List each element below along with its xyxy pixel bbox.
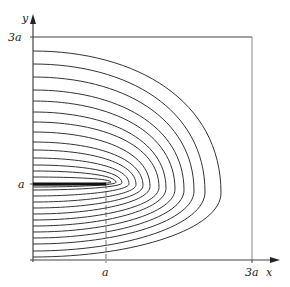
y-axis-arrow-icon [30, 14, 36, 24]
x-tick-label-3a: 3a [245, 266, 259, 279]
y-axis-label: y [21, 12, 29, 25]
field-line-diagram: y 3a a a 3a x [0, 0, 290, 287]
y-tick-label-a: a [18, 178, 25, 191]
x-axis-arrow-icon [270, 257, 280, 263]
x-tick-label-a: a [102, 266, 109, 279]
x-axis-label: x [266, 266, 273, 279]
field-lines [33, 51, 221, 257]
y-tick-label-3a: 3a [8, 31, 22, 44]
